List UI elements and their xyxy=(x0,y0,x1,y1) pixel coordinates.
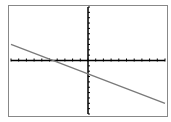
graph-screen xyxy=(0,0,171,122)
